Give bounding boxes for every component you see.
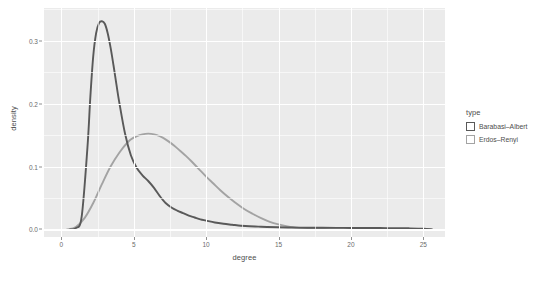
y-tick-label: 0.2 — [18, 100, 38, 107]
grid-line-major-x — [351, 8, 352, 237]
x-tick-label: 20 — [347, 241, 354, 248]
legend-key-swatch — [466, 122, 475, 131]
grid-line-minor-y — [44, 72, 445, 73]
legend: type Barabasi–AlbertErdos–Renyi — [466, 108, 552, 146]
legend-item[interactable]: Erdos–Renyi — [466, 133, 552, 145]
series-line — [67, 134, 432, 230]
x-tick-label: 0 — [60, 241, 64, 248]
legend-item-label: Erdos–Renyi — [479, 136, 518, 143]
legend-item[interactable]: Barabasi–Albert — [466, 120, 552, 132]
grid-line-major-x — [279, 8, 280, 237]
grid-line-minor-y — [44, 135, 445, 136]
x-tick-mark — [351, 237, 352, 240]
grid-line-major-y — [44, 104, 445, 105]
y-tick-label: 0.0 — [18, 226, 38, 233]
x-axis-tick-labels: 0510152025 — [44, 241, 445, 252]
x-tick-label: 25 — [420, 241, 427, 248]
y-tick-mark — [39, 103, 42, 104]
grid-line-minor-x — [170, 8, 171, 237]
x-tick-label: 5 — [132, 241, 136, 248]
y-tick-label: 0.3 — [18, 37, 38, 44]
density-plot-figure: density 0.00.10.20.3 0510152025 degree t… — [0, 0, 557, 284]
x-tick-mark — [423, 237, 424, 240]
x-tick-label: 10 — [203, 241, 210, 248]
grid-line-major-y — [44, 41, 445, 42]
grid-line-major-x — [206, 8, 207, 237]
x-tick-mark — [279, 237, 280, 240]
y-axis-tick-labels: 0.00.10.20.3 — [16, 0, 38, 237]
grid-line-major-y — [44, 167, 445, 168]
legend-key-swatch — [466, 135, 475, 144]
grid-line-minor-x — [98, 8, 99, 237]
x-tick-label: 15 — [275, 241, 282, 248]
grid-line-minor-x — [315, 8, 316, 237]
x-tick-mark — [61, 237, 62, 240]
grid-line-major-y — [44, 229, 445, 230]
grid-line-minor-y — [44, 9, 445, 10]
grid-line-minor-y — [44, 198, 445, 199]
grid-line-minor-x — [387, 8, 388, 237]
legend-title: type — [466, 108, 552, 117]
y-tick-label: 0.1 — [18, 163, 38, 170]
x-tick-mark — [134, 237, 135, 240]
x-axis-title: degree — [44, 253, 445, 262]
grid-line-major-x — [423, 8, 424, 237]
legend-item-label: Barabasi–Albert — [479, 123, 527, 130]
grid-line-major-x — [61, 8, 62, 237]
grid-line-minor-x — [242, 8, 243, 237]
x-tick-mark — [206, 237, 207, 240]
plot-panel — [44, 8, 445, 237]
density-curves — [44, 8, 445, 237]
y-tick-mark — [39, 229, 42, 230]
y-tick-mark — [39, 166, 42, 167]
y-tick-mark — [39, 40, 42, 41]
legend-items: Barabasi–AlbertErdos–Renyi — [466, 120, 552, 145]
grid-line-major-x — [134, 8, 135, 237]
